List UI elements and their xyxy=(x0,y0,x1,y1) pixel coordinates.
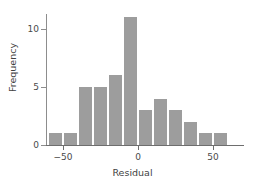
x-axis-label: Residual xyxy=(0,167,265,178)
histogram-bar xyxy=(108,75,123,145)
plot-area: 0510 −50050 Frequency Residual xyxy=(0,0,265,187)
histogram-bar xyxy=(213,133,228,145)
y-axis-spine xyxy=(46,14,47,146)
histogram-bar xyxy=(78,87,93,145)
histogram-bar xyxy=(93,87,108,145)
y-axis-tick xyxy=(41,145,46,146)
x-axis-tick-label: 50 xyxy=(207,153,218,162)
y-axis-tick-label: 5 xyxy=(33,83,39,92)
histogram-bar xyxy=(63,133,78,145)
histogram-bar xyxy=(48,133,63,145)
y-axis-tick-label: 10 xyxy=(28,25,39,34)
histogram-bar xyxy=(123,17,138,145)
x-axis-tick xyxy=(213,145,214,150)
histogram-bar xyxy=(183,122,198,145)
histogram-bar xyxy=(153,99,168,145)
y-axis-tick xyxy=(41,87,46,88)
histogram-bar xyxy=(138,110,153,145)
histogram-figure: 0510 −50050 Frequency Residual xyxy=(0,0,265,187)
y-axis-label: Frequency xyxy=(7,32,18,104)
x-axis-tick xyxy=(63,145,64,150)
histogram-bar xyxy=(198,133,213,145)
x-axis-tick xyxy=(138,145,139,150)
y-axis-tick xyxy=(41,29,46,30)
x-axis-spine xyxy=(46,145,244,146)
histogram-bar xyxy=(168,110,183,145)
x-axis-tick-label: −50 xyxy=(54,153,73,162)
y-axis-tick-label: 0 xyxy=(33,141,39,150)
x-axis-tick-label: 0 xyxy=(135,153,141,162)
